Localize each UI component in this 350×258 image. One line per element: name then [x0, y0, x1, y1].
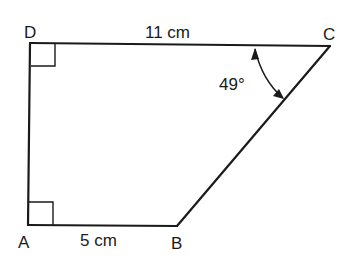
trapezium-diagram: D C A B 11 cm 5 cm 49° [0, 0, 350, 258]
side-label-ab: 5 cm [80, 231, 117, 250]
vertex-label-d: D [24, 23, 36, 42]
side-ad [28, 43, 30, 225]
vertex-label-c: C [323, 25, 335, 44]
side-ba [28, 225, 177, 226]
side-cb [177, 46, 330, 226]
arrowhead-top-icon [251, 48, 259, 60]
right-angle-mark-a [29, 202, 53, 225]
angle-label-c: 49° [219, 75, 245, 94]
right-angle-mark-d [31, 44, 55, 66]
side-dc [30, 43, 330, 46]
vertex-label-b: B [171, 234, 182, 253]
side-label-dc: 11 cm [145, 23, 190, 42]
vertex-label-a: A [18, 233, 30, 252]
